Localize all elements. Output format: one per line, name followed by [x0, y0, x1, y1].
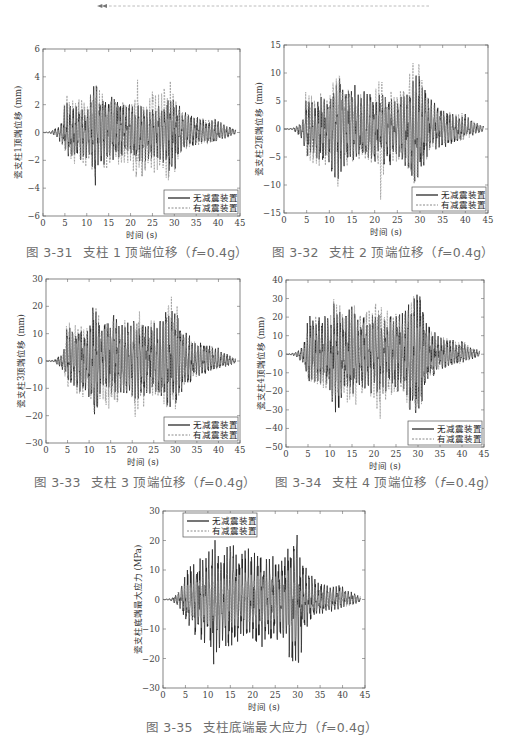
figure-title: 支柱底端最大应力（: [203, 720, 322, 735]
legend: 无减震装置有减震装置: [408, 421, 482, 445]
x-tick-label: 5: [62, 218, 67, 228]
y-tick-label: 20: [272, 312, 283, 322]
figure-number: 图 3-32: [272, 245, 319, 260]
chart-pillar-bottom-max-stress: 051015202530354045−30−20−100102030时间 (s)…: [128, 495, 398, 717]
figure-title: 支柱 4 顶端位移（: [332, 475, 441, 490]
x-tick-label: 45: [360, 690, 371, 700]
figure-number: 图 3-34: [275, 475, 322, 490]
figure-caption: 图 3-34支柱 4 顶端位移（f=0.4g）: [275, 472, 498, 491]
y-axis-label: 瓷支柱4顶端位移 (mm): [256, 317, 266, 411]
legend-label-with-damper: 有减震装置: [441, 200, 486, 210]
y-tick-label: −6: [27, 211, 40, 221]
figure-caption: 图 3-31支柱 1 顶端位移（f=0.4g）: [26, 242, 249, 261]
legend-label-without-damper: 无减震装置: [437, 424, 482, 434]
legend: 无减震装置有减震装置: [164, 190, 238, 214]
legend-label-with-damper: 有减震装置: [212, 526, 257, 536]
x-tick-label: 30: [292, 690, 303, 700]
x-tick-label: 35: [191, 445, 202, 455]
figure-3-35: 051015202530354045−30−20−100102030时间 (s)…: [128, 495, 398, 735]
x-tick-label: 15: [347, 449, 358, 459]
chart-pillar2-top-displacement: 051015202530354045−15−10−5051015时间 (s)瓷支…: [256, 30, 512, 245]
x-tick-label: 35: [437, 215, 448, 225]
legend: 无减震装置有减震装置: [183, 513, 257, 537]
y-tick-label: 4: [35, 72, 40, 82]
y-axis-label: 瓷支柱3顶端位移 (mm): [16, 314, 26, 408]
x-tick-label: 20: [247, 690, 258, 700]
legend: 无减震装置有减震装置: [164, 417, 238, 441]
y-axis-label: 瓷支柱底端最大应力 (MPa): [133, 545, 143, 654]
series-with-damper: [284, 63, 484, 199]
y-tick-label: 20: [149, 536, 160, 546]
figure-number: 图 3-33: [34, 475, 81, 490]
y-tick-label: 10: [272, 331, 283, 341]
figure-3-34: 051015202530354045−50−40−30−20−100102030…: [256, 262, 512, 497]
chart-pillar4-top-displacement: 051015202530354045−50−40−30−20−100102030…: [256, 262, 512, 477]
x-tick-label: 0: [281, 215, 286, 225]
x-tick-label: 5: [183, 690, 188, 700]
x-tick-label: 10: [84, 445, 95, 455]
y-tick-label: 30: [149, 506, 160, 516]
x-tick-label: 25: [270, 690, 281, 700]
y-tick-label: −20: [265, 386, 283, 396]
y-axis-label: 瓷支柱1顶端位移 (mm): [13, 86, 23, 180]
y-tick-label: 0: [276, 124, 281, 134]
figure-3-31: 051015202530354045−6−4−20246时间 (s)瓷支柱1顶端…: [0, 30, 256, 265]
x-tick-label: 25: [392, 215, 403, 225]
x-tick-label: 10: [324, 215, 335, 225]
x-tick-label: 0: [160, 690, 165, 700]
x-tick-label: 45: [479, 449, 490, 459]
double-left-arrow-icon: [97, 4, 107, 8]
x-tick-label: 25: [147, 218, 158, 228]
y-tick-label: 30: [32, 274, 43, 284]
y-tick-label: 0: [38, 356, 43, 366]
figure-caption: 图 3-35支柱底端最大应力（f=0.4g）: [146, 717, 378, 736]
x-tick-label: 25: [148, 445, 159, 455]
x-axis-label: 时间 (s): [127, 457, 159, 467]
x-tick-label: 15: [225, 690, 236, 700]
x-axis-label: 时间 (s): [248, 702, 280, 712]
figure-title: 支柱 3 顶端位移（: [91, 475, 200, 490]
figure-caption: 图 3-33支柱 3 顶端位移（f=0.4g）: [34, 472, 257, 491]
x-tick-label: 5: [305, 449, 310, 459]
y-tick-label: 0: [278, 349, 283, 359]
x-tick-label: 40: [457, 449, 468, 459]
x-axis-label: 时间 (s): [369, 461, 401, 471]
figure-number: 图 3-31: [26, 245, 73, 260]
y-tick-label: −10: [142, 624, 160, 634]
y-tick-label: 2: [35, 100, 40, 110]
y-tick-label: 40: [272, 275, 283, 285]
x-tick-label: 25: [391, 449, 402, 459]
chart-pillar1-top-displacement: 051015202530354045−6−4−20246时间 (s)瓷支柱1顶端…: [0, 30, 256, 245]
legend-label-without-damper: 无减震装置: [193, 420, 238, 430]
x-tick-label: 5: [65, 445, 70, 455]
x-tick-label: 45: [235, 445, 246, 455]
legend-label-without-damper: 无减震装置: [212, 516, 257, 526]
chart-pillar3-top-displacement: 051015202530354045−30−20−100102030时间 (s)…: [0, 262, 256, 477]
x-tick-label: 0: [43, 445, 48, 455]
y-tick-label: −40: [265, 423, 283, 433]
x-tick-label: 10: [202, 690, 213, 700]
y-tick-label: −50: [265, 442, 283, 452]
x-tick-label: 30: [415, 215, 426, 225]
x-tick-label: 30: [170, 445, 181, 455]
y-tick-label: −10: [263, 180, 281, 190]
figure-title: 支柱 2 顶端位移（: [329, 245, 438, 260]
x-tick-label: 45: [235, 218, 246, 228]
y-tick-label: 5: [276, 96, 281, 106]
x-tick-label: 30: [413, 449, 424, 459]
y-tick-label: −15: [263, 208, 281, 218]
legend-label-without-damper: 无减震装置: [193, 193, 238, 203]
y-tick-label: 6: [35, 44, 40, 54]
legend-label-with-damper: 有减震装置: [437, 434, 482, 444]
x-tick-label: 20: [369, 215, 380, 225]
x-tick-label: 15: [347, 215, 358, 225]
legend-label-with-damper: 有减震装置: [193, 203, 238, 213]
y-tick-label: 30: [272, 294, 283, 304]
y-axis-label: 瓷支柱2顶端位移 (mm): [254, 82, 264, 176]
x-tick-label: 0: [283, 449, 288, 459]
y-tick-label: 10: [32, 329, 43, 339]
x-tick-label: 45: [483, 215, 494, 225]
y-tick-label: 0: [155, 595, 160, 605]
x-axis-label: 时间 (s): [370, 227, 402, 237]
y-tick-label: 15: [270, 40, 281, 50]
